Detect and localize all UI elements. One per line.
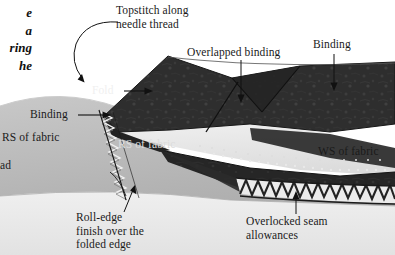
- label-rs-of-fabric-left: RS of fabric: [2, 131, 59, 145]
- label-ws-of-fabric: WS of fabric: [318, 145, 379, 159]
- label-binding-left: Binding: [30, 108, 68, 122]
- label-fold: Fold: [92, 84, 114, 98]
- label-topstitch: Topstitch along needle thread: [116, 4, 189, 31]
- label-overlapped-binding: Overlapped binding: [187, 46, 280, 60]
- label-rs-of-fabric-mid: RS of fabric: [118, 138, 175, 152]
- label-binding-top-right: Binding: [313, 38, 351, 52]
- label-overlocked-seam-allowances: Overlocked seam allowances: [246, 215, 328, 242]
- label-roll-edge: Roll-edge finish over the folded edge: [76, 211, 144, 252]
- label-thread-clipped: ad: [0, 159, 11, 173]
- sewing-illustration-figure: e a ring he Topstitch along needle threa…: [0, 0, 395, 255]
- body-text-clipped: e a ring he: [0, 4, 32, 74]
